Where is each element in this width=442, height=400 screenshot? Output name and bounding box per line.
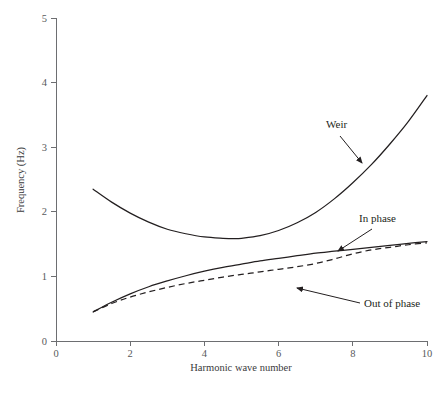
y-tick-label: 4 [42, 77, 48, 88]
y-tick-label: 2 [42, 206, 47, 217]
y-tick-label: 1 [42, 271, 47, 282]
annotation-label-weir: Weir [326, 118, 347, 130]
x-axis-title: Harmonic wave number [190, 362, 292, 373]
axis-titles: Harmonic wave number Frequency (Hz) [15, 146, 292, 373]
x-tick-label: 6 [276, 348, 281, 359]
annotation-arrow-out-of-phase [297, 288, 360, 303]
series-annotations-group: WeirIn phaseOut of phase [297, 118, 420, 309]
annotation-label-out-of-phase: Out of phase [364, 297, 420, 309]
data-series-group [93, 96, 427, 312]
x-tick-label: 2 [128, 348, 133, 359]
x-tick-label: 0 [53, 348, 58, 359]
annotation-arrow-weir [340, 136, 362, 163]
annotation-label-in-phase: In phase [359, 212, 396, 224]
frequency-vs-harmonic-wave-number-chart: 012345 0246810 Harmonic wave number Freq… [0, 0, 442, 400]
y-tick-label: 3 [42, 142, 47, 153]
x-axis-ticks: 0246810 [53, 341, 432, 359]
x-tick-label: 4 [202, 348, 208, 359]
x-tick-label: 10 [422, 348, 433, 359]
figure-container: 012345 0246810 Harmonic wave number Freq… [0, 0, 442, 400]
y-axis-title: Frequency (Hz) [15, 146, 27, 213]
y-tick-label: 5 [42, 13, 47, 24]
y-axis-ticks: 012345 [42, 13, 56, 347]
x-tick-label: 8 [350, 348, 355, 359]
y-tick-label: 0 [42, 336, 47, 347]
